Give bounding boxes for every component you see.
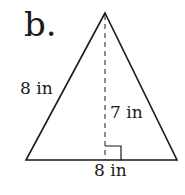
problem-label: b. [24,6,57,42]
side-length-label: 8 in [20,78,53,98]
right-angle-marker [105,146,121,160]
base-length-label: 8 in [94,160,127,180]
triangle-diagram: b. 8 in 7 in 8 in [0,0,185,195]
height-label: 7 in [110,102,143,122]
